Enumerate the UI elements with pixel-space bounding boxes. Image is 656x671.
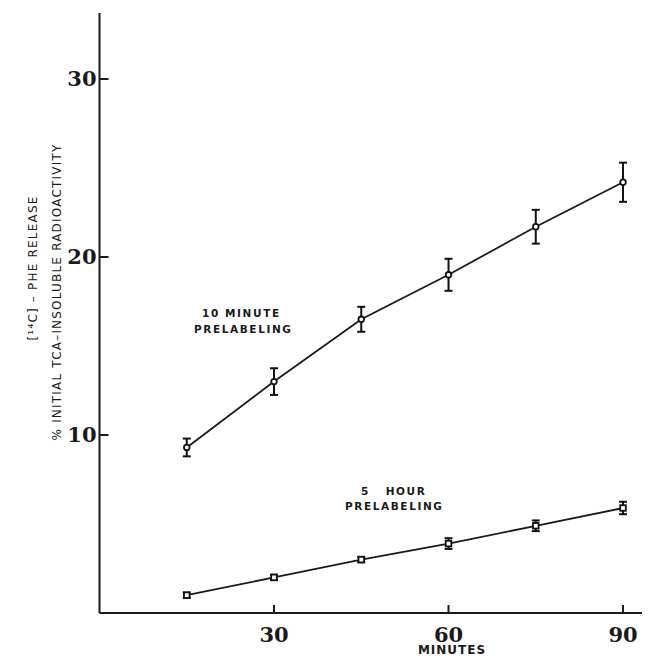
data-point [620,505,626,511]
series-line-five-hour [187,508,623,595]
data-point [184,445,190,451]
data-point [446,272,452,278]
x-axis-label: MINUTES [418,643,486,657]
data-point [271,379,277,385]
annotation-10-minute-line-2: PRELABELING [194,323,293,335]
series-five-hour [183,502,627,598]
y-axis-label-line-1: [¹⁴C] – PHE RELEASE [26,195,40,340]
data-point [358,557,364,563]
data-point [271,575,277,581]
x-tick-label-30: 30 [259,622,288,647]
axes [100,13,643,613]
data-point [533,224,539,230]
data-point [446,541,452,547]
series-group [183,163,627,598]
annotation-5-hour-line-2: PRELABELING [345,500,444,512]
data-point [620,179,626,185]
y-axis-label-line-2: % INITIAL TCA–INSOLUBLE RADIOACTIVITY [50,144,64,441]
y-tick-label-20: 20 [67,244,96,269]
y-tick-label-30: 30 [67,66,96,91]
annotation-5-hour-line-1: 5 HOUR [361,485,426,497]
chart: 306090 102030 MINUTES [¹⁴C] – PHE RELEAS… [0,0,656,671]
data-point [533,523,539,529]
annotation-10-minute-line-1: 10 MINUTE [202,307,281,319]
data-point [358,317,364,323]
y-tick-label-10: 10 [67,422,96,447]
data-point [184,592,190,598]
x-tick-label-90: 90 [608,622,637,647]
y-ticks: 102030 [67,66,108,447]
x-ticks: 306090 [259,605,637,647]
